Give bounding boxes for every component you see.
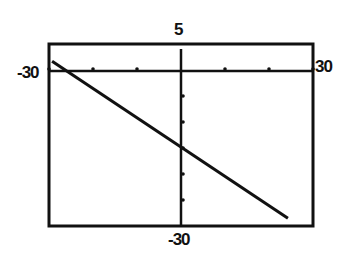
plotted-line: [52, 61, 288, 218]
ymax-label: 5: [174, 20, 182, 40]
ymin-label: -30: [168, 230, 190, 250]
xmax-label: 30: [315, 57, 332, 77]
xmin-label: -30: [17, 63, 39, 83]
